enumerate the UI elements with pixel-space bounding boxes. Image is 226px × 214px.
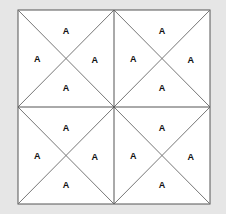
- triangle-label-left: A: [130, 151, 137, 160]
- triangle-label-left: A: [34, 54, 41, 63]
- triangle-label-top: A: [63, 27, 70, 36]
- triangle-label-bottom: A: [159, 180, 166, 189]
- triangle-label-right: A: [92, 56, 99, 65]
- triangle-label-right: A: [188, 56, 195, 65]
- triangle-label-right: A: [92, 153, 99, 162]
- triangle-label-left: A: [34, 151, 41, 160]
- triangle-label-bottom: A: [63, 83, 70, 92]
- triangle-label-top: A: [159, 27, 166, 36]
- triangle-label-bottom: A: [63, 180, 70, 189]
- triangle-label-top: A: [63, 124, 70, 133]
- triangle-label-top: A: [159, 124, 166, 133]
- quadrant-diagram: [0, 0, 226, 214]
- triangle-label-left: A: [130, 54, 137, 63]
- triangle-label-bottom: A: [159, 83, 166, 92]
- triangle-label-right: A: [188, 153, 195, 162]
